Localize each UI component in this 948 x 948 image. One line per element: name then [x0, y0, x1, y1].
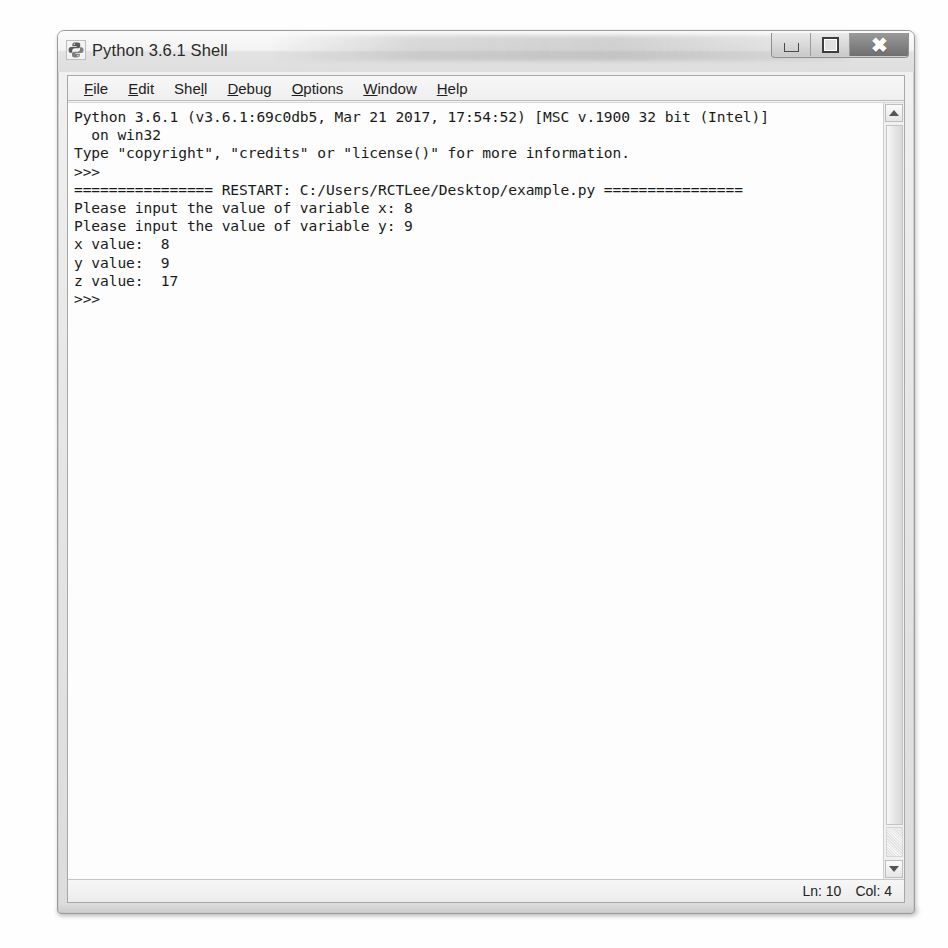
scrollbar-track[interactable] [886, 827, 903, 857]
scroll-down-arrow-icon [889, 866, 899, 872]
window-client-area: File Edit Shell Debug Options Window Hel… [67, 75, 905, 903]
scrollbar-thumb[interactable] [886, 125, 903, 825]
python-shell-window: Python 3.6.1 Shell ✖ File Edit Shell [57, 30, 915, 914]
menu-item-options[interactable]: Options [282, 78, 354, 99]
window-controls: ✖ [771, 33, 909, 58]
screenshot-canvas: Python 3.6.1 Shell ✖ File Edit Shell [0, 0, 948, 948]
console-line: ================ RESTART: C:/Users/RCTLe… [74, 181, 879, 199]
scroll-up-arrow-icon [889, 110, 899, 116]
menu-item-file[interactable]: File [74, 78, 118, 99]
console-line: >>> [74, 290, 879, 308]
console-line: >>> [74, 163, 879, 181]
console-line: x value: 8 [74, 235, 879, 253]
console-line: Please input the value of variable y: 9 [74, 217, 879, 235]
page-scan-shadow [57, 908, 919, 916]
scroll-up-button[interactable] [885, 104, 903, 122]
menu-item-debug[interactable]: Debug [217, 78, 281, 99]
close-icon: ✖ [871, 35, 888, 55]
vertical-scrollbar[interactable] [883, 103, 904, 879]
menu-item-shell[interactable]: Shell [164, 78, 217, 99]
console-line: Type "copyright", "credits" or "license(… [74, 144, 879, 162]
minimize-icon [784, 43, 799, 52]
menu-item-window[interactable]: Window [353, 78, 426, 99]
console-line: z value: 17 [74, 272, 879, 290]
menubar: File Edit Shell Debug Options Window Hel… [68, 76, 904, 101]
titlebar-left-group: Python 3.6.1 Shell [64, 35, 242, 65]
shell-output[interactable]: Python 3.6.1 (v3.6.1:69c0db5, Mar 21 201… [68, 103, 883, 879]
status-column-indicator: Col: 4 [855, 883, 892, 899]
maximize-button[interactable] [811, 33, 850, 56]
python-logo-icon [66, 40, 86, 60]
maximize-icon [822, 37, 839, 53]
window-title: Python 3.6.1 Shell [92, 41, 228, 60]
statusbar: Ln: 10 Col: 4 [68, 879, 904, 902]
menu-item-edit[interactable]: Edit [118, 78, 164, 99]
scroll-down-button[interactable] [885, 860, 903, 878]
close-button[interactable]: ✖ [850, 33, 908, 56]
console-line: on win32 [74, 126, 879, 144]
status-line-indicator: Ln: 10 [802, 883, 841, 899]
console-line: y value: 9 [74, 254, 879, 272]
console-line: Python 3.6.1 (v3.6.1:69c0db5, Mar 21 201… [74, 108, 879, 126]
console-line: Please input the value of variable x: 8 [74, 199, 879, 217]
titlebar-scan-artifact [268, 35, 848, 61]
minimize-button[interactable] [772, 33, 811, 56]
shell-output-text: Python 3.6.1 (v3.6.1:69c0db5, Mar 21 201… [74, 108, 879, 308]
window-titlebar[interactable]: Python 3.6.1 Shell ✖ [58, 31, 914, 72]
shell-text-region: Python 3.6.1 (v3.6.1:69c0db5, Mar 21 201… [68, 102, 904, 879]
menu-item-help[interactable]: Help [427, 78, 478, 99]
